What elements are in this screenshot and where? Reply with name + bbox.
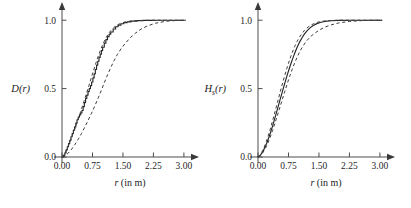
y-tick-label-2: 1.0 <box>44 16 56 26</box>
curve-upper-envelope <box>62 20 186 157</box>
x-tick-label-3: 2.25 <box>145 161 162 171</box>
curve-empirical-cdf <box>62 20 184 157</box>
y-tick-label-2: 1.0 <box>240 16 252 26</box>
y-axis-arrow-icon <box>255 2 261 10</box>
chart-panel-right: 0.000.751.502.253.000.00.51.0r (in m)Hs(… <box>196 0 401 208</box>
y-axis-label: Hs(r) <box>203 83 226 96</box>
chart-svg-left: 0.000.751.502.253.000.00.51.0r (in m)D(r… <box>0 0 205 208</box>
y-tick-label-1: 0.5 <box>44 84 56 94</box>
x-axis-arrow-icon <box>387 154 395 160</box>
x-tick-label-4: 3.00 <box>372 161 389 171</box>
curve-lower-envelope <box>258 20 382 157</box>
x-tick-label-0: 0.00 <box>250 161 267 171</box>
x-axis-title-units: (in m) <box>314 177 341 189</box>
y-tick-label-0: 0.0 <box>240 152 252 162</box>
y-tick-label-1: 0.5 <box>240 84 252 94</box>
curve-lower-envelope <box>62 20 186 157</box>
chart-svg-right: 0.000.751.502.253.000.00.51.0r (in m)Hs(… <box>196 0 401 208</box>
x-axis-title: r (in m) <box>310 177 341 189</box>
y-axis-label-arg: (r) <box>215 83 227 95</box>
x-tick-label-2: 1.50 <box>311 161 328 171</box>
x-tick-label-1: 0.75 <box>280 161 297 171</box>
x-tick-label-3: 2.25 <box>341 161 358 171</box>
y-tick-label-0: 0.0 <box>44 152 56 162</box>
figure-two-panel-cdf-plot: 0.000.751.502.253.000.00.51.0r (in m)D(r… <box>0 0 411 208</box>
chart-panel-left: 0.000.751.502.253.000.00.51.0r (in m)D(r… <box>0 0 205 208</box>
x-axis-title: r (in m) <box>114 177 145 189</box>
curve-upper-envelope <box>258 20 382 157</box>
x-tick-label-4: 3.00 <box>176 161 193 171</box>
x-axis-title-units: (in m) <box>118 177 145 189</box>
y-axis-label: D(r) <box>10 83 30 95</box>
x-tick-label-2: 1.50 <box>115 161 132 171</box>
curve-empirical-cdf <box>258 20 382 157</box>
x-tick-label-0: 0.00 <box>54 161 71 171</box>
y-axis-label-arg: (r) <box>19 83 31 95</box>
x-tick-label-1: 0.75 <box>84 161 101 171</box>
y-axis-arrow-icon <box>59 2 65 10</box>
